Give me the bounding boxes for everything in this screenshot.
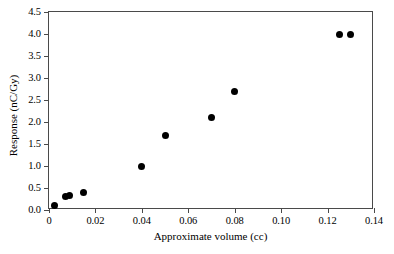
y-axis-tick-label: 4.0 <box>28 29 41 40</box>
data-point <box>80 189 87 196</box>
y-axis-tick-label: 4.5 <box>28 7 41 18</box>
y-axis-tick <box>44 100 49 101</box>
x-axis-tick <box>49 208 50 213</box>
x-axis-tick <box>374 208 375 213</box>
x-axis-tick-label: 0.02 <box>86 216 104 227</box>
y-axis-tick <box>44 56 49 57</box>
data-point <box>162 132 169 139</box>
y-axis-tick-label: 1.5 <box>28 139 41 150</box>
x-axis-tick-label: 0.12 <box>319 216 337 227</box>
y-axis-tick <box>44 78 49 79</box>
y-axis-tick-label: 2.0 <box>28 117 41 128</box>
y-axis-label: Response (nC/Gy) <box>8 41 19 191</box>
x-axis-tick-label: 0.06 <box>179 216 197 227</box>
data-point <box>51 202 58 209</box>
x-axis-label: Approximate volume (cc) <box>48 231 373 242</box>
y-axis-tick-label: 3.0 <box>28 73 41 84</box>
y-axis-tick-label: 0.0 <box>28 205 41 216</box>
y-axis-tick <box>44 144 49 145</box>
y-axis-tick <box>44 12 49 13</box>
x-axis-tick-label: 0.10 <box>272 216 290 227</box>
data-point <box>336 31 343 38</box>
x-axis-tick-label: 0.08 <box>226 216 244 227</box>
y-axis-tick <box>44 166 49 167</box>
y-axis-tick-label: 3.5 <box>28 51 41 62</box>
data-point <box>347 31 354 38</box>
x-axis-tick-label: 0.14 <box>365 216 383 227</box>
y-axis-tick-label: 0.5 <box>28 183 41 194</box>
data-point <box>208 114 215 121</box>
x-axis-tick <box>235 208 236 213</box>
data-point <box>66 192 73 199</box>
x-axis-tick <box>281 208 282 213</box>
data-point <box>231 88 238 95</box>
y-axis-tick-label: 2.5 <box>28 95 41 106</box>
plot-area: 0.00.51.01.52.02.53.03.54.04.5 00.020.04… <box>48 11 373 209</box>
y-axis-tick <box>44 122 49 123</box>
x-axis-tick <box>95 208 96 213</box>
y-axis-tick-label: 1.0 <box>28 161 41 172</box>
scatter-chart-figure: 0.00.51.01.52.02.53.03.54.04.5 00.020.04… <box>0 0 394 254</box>
x-axis-tick <box>328 208 329 213</box>
x-axis-tick-label: 0.04 <box>133 216 151 227</box>
data-point <box>138 163 145 170</box>
y-axis-tick <box>44 188 49 189</box>
x-axis-tick <box>188 208 189 213</box>
x-axis-tick <box>142 208 143 213</box>
x-axis-tick-label: 0 <box>46 216 51 227</box>
y-axis-tick <box>44 34 49 35</box>
